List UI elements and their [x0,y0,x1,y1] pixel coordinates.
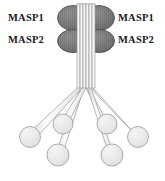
label-masp2-right: MASP2 [118,35,154,46]
mbl-masp-complex-figure: MASP1 MASP2 MASP1 MASP2 [0,0,165,181]
stalk-bundle-overlay [77,4,95,88]
complex-diagram-canvas [0,0,165,181]
label-masp2-left: MASP2 [8,35,44,46]
head-6 [128,127,149,148]
head-4 [97,114,117,134]
label-masp1-right: MASP1 [118,13,154,24]
head-5 [101,144,123,166]
head-2 [47,144,69,166]
recognition-head-group [20,114,149,166]
head-3 [53,114,73,134]
label-masp1-left: MASP1 [8,13,44,24]
head-1 [20,127,41,148]
